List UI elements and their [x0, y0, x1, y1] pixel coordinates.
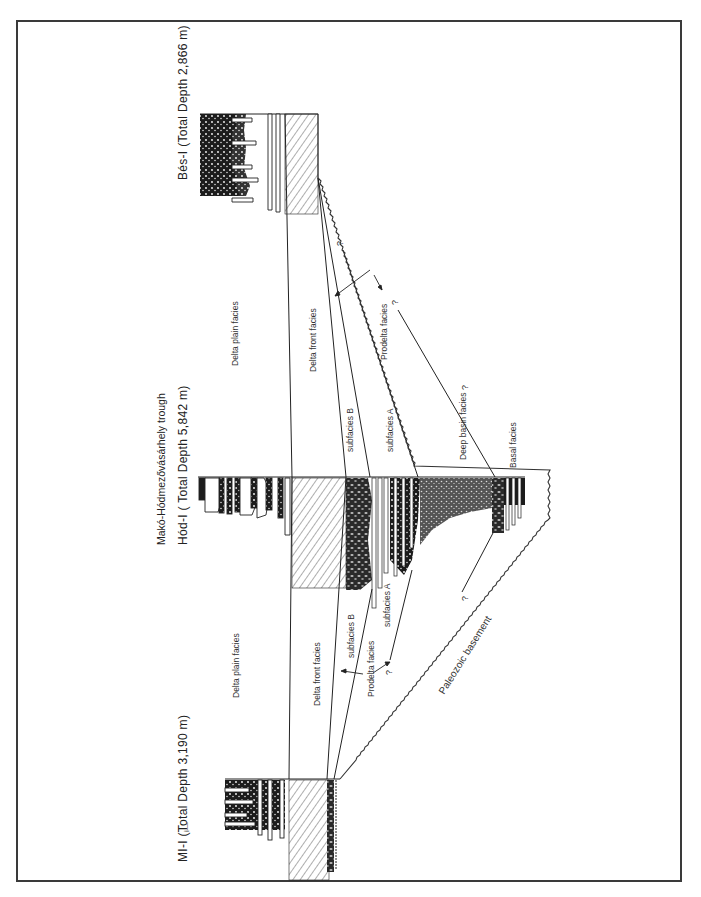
label-prodelta-left: Prodelta facies — [366, 641, 376, 697]
well-log-hod1 — [198, 477, 525, 608]
well-log-bes1 — [200, 114, 318, 214]
label-delta-front-right: Delta front facies — [308, 308, 318, 372]
label-delta-plain-left: Delta plain facies — [231, 633, 241, 698]
svg-text:?: ? — [335, 241, 345, 246]
label-deep-basin: Deep basin facies — [458, 392, 468, 460]
well-log-mi1 — [225, 779, 340, 880]
label-subfacies-b-left: subfacies B — [346, 614, 356, 658]
label-prodelta-right: Prodelta facies — [379, 304, 389, 360]
trough-title: Makó-Hódmezővásárhely trough — [155, 393, 167, 545]
label-paleozoic-basement: Paleozoic basement — [436, 614, 493, 696]
margin-mark: i— — [182, 822, 191, 832]
svg-text:?: ? — [460, 385, 470, 390]
well-label-bes1: Bés-I (Total Depth 2,866 m) — [176, 25, 190, 180]
well-label-hod1: Hód-I ( Total Depth 5,842 m) — [176, 385, 190, 545]
label-subfacies-a-right: subfacies A — [385, 408, 395, 452]
label-delta-front-left: Delta front facies — [312, 642, 322, 706]
label-subfacies-b-right: subfacies B — [345, 408, 355, 452]
cross-section-diagram: MI-I (Total Depth 3,190 m) Hód-I ( Total… — [0, 0, 701, 897]
svg-text:?: ? — [384, 670, 394, 675]
well-label-mi1: MI-I (Total Depth 3,190 m) — [176, 715, 190, 862]
label-basal: Basal facies — [508, 422, 518, 468]
label-delta-plain-right: Delta plain facies — [230, 301, 240, 366]
svg-text:?: ? — [390, 300, 400, 305]
svg-text:?: ? — [460, 596, 470, 601]
label-subfacies-a-left: subfacies A — [382, 583, 392, 627]
